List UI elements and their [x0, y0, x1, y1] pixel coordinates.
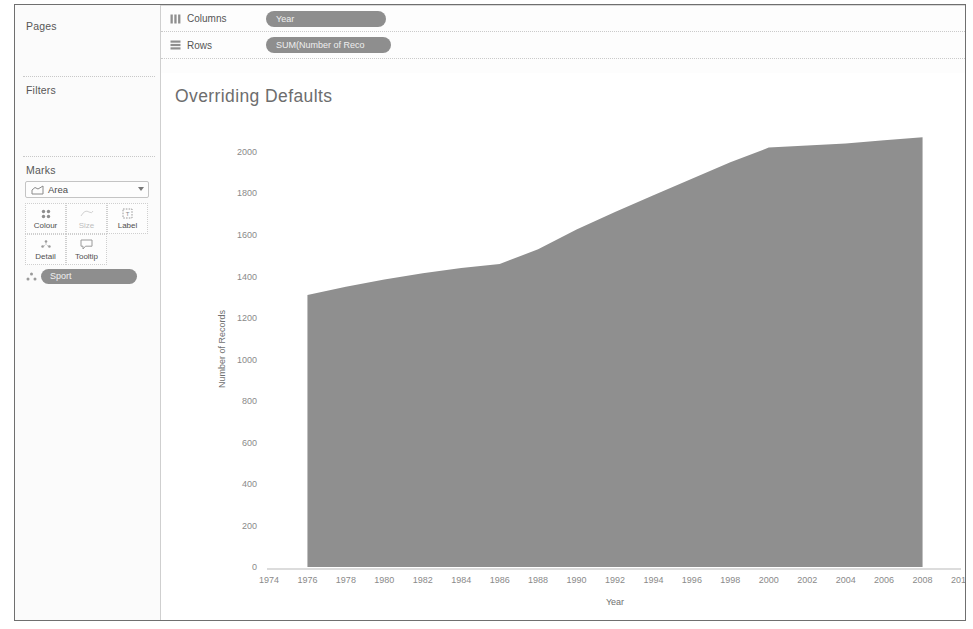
- x-tick-label: 1998: [720, 575, 740, 585]
- rows-shelf-label-group: Rows: [161, 40, 266, 51]
- x-tick-label: 2006: [874, 575, 894, 585]
- x-tick-label: 1974: [259, 575, 279, 585]
- x-tick-label: 1982: [413, 575, 433, 585]
- chart-container[interactable]: 0200400600800100012001400160018002000 19…: [161, 125, 957, 620]
- x-tick-label: 1984: [451, 575, 471, 585]
- area-series-number-of-records[interactable]: [307, 137, 922, 567]
- rows-pill-sum-number-of-records[interactable]: SUM(Number of Reco: [266, 37, 391, 53]
- pages-shelf[interactable]: Pages: [15, 13, 161, 77]
- y-tick-label: 1600: [237, 230, 257, 240]
- left-sidebar: Pages Filters Marks Area: [15, 5, 161, 620]
- x-tick-label: 2008: [913, 575, 933, 585]
- columns-icon: [170, 14, 181, 24]
- x-tick-label: 1978: [336, 575, 356, 585]
- marks-card: Marks Area: [15, 157, 161, 317]
- colour-icon: [40, 208, 52, 220]
- marks-card-encoding-row: Sport: [25, 269, 149, 284]
- mark-type-value: Area: [48, 184, 68, 195]
- y-tick-label: 1000: [237, 355, 257, 365]
- tooltip-icon: [80, 239, 93, 251]
- x-axis-ticks: 1974197619781980198219841986198819901992…: [259, 575, 966, 585]
- x-tick-label: 2010: [951, 575, 966, 585]
- marks-button-label: Detail: [35, 252, 55, 261]
- y-axis-title: Number of Records: [217, 309, 227, 388]
- y-axis-ticks: 0200400600800100012001400160018002000: [237, 147, 257, 572]
- x-axis-title: Year: [606, 597, 624, 607]
- marks-button-label: Size: [79, 221, 95, 230]
- filters-shelf-title: Filters: [15, 77, 161, 96]
- area-chart[interactable]: 0200400600800100012001400160018002000 19…: [161, 125, 966, 620]
- y-tick-label: 600: [242, 438, 257, 448]
- size-icon: [80, 208, 94, 220]
- viz-pane: Overriding Defaults 02004006008001000120…: [161, 73, 965, 620]
- shelf-area: Columns Year Rows SUM(Number of Reco: [161, 5, 965, 73]
- x-tick-label: 1986: [490, 575, 510, 585]
- x-tick-label: 1994: [643, 575, 663, 585]
- marks-button-label: Tooltip: [75, 252, 98, 261]
- marks-buttons: Colour Size: [25, 203, 149, 265]
- y-tick-label: 200: [242, 521, 257, 531]
- x-tick-label: 1976: [297, 575, 317, 585]
- columns-shelf[interactable]: Columns Year: [161, 5, 965, 32]
- rows-shelf-label: Rows: [187, 40, 212, 51]
- marks-card-title: Marks: [15, 157, 161, 176]
- tableau-window: Pages Filters Marks Area: [14, 4, 966, 621]
- x-tick-label: 2002: [797, 575, 817, 585]
- y-tick-label: 0: [252, 562, 257, 572]
- rows-icon: [170, 40, 181, 50]
- marks-button-label[interactable]: T Label: [107, 203, 148, 234]
- marks-button-detail[interactable]: Detail: [25, 234, 66, 265]
- y-tick-label: 400: [242, 479, 257, 489]
- mark-type-dropdown[interactable]: Area: [25, 181, 149, 198]
- marks-button-colour[interactable]: Colour: [25, 203, 66, 234]
- rows-shelf[interactable]: Rows SUM(Number of Reco: [161, 32, 965, 59]
- chevron-down-icon[interactable]: [138, 187, 144, 191]
- filters-shelf[interactable]: Filters: [15, 77, 161, 157]
- colour-icon: [25, 271, 38, 282]
- marks-button-label: Label: [118, 221, 138, 230]
- x-tick-label: 1988: [528, 575, 548, 585]
- viz-title: Overriding Defaults: [175, 86, 332, 107]
- y-tick-label: 1400: [237, 272, 257, 282]
- area-mark-icon: [31, 185, 44, 195]
- x-tick-label: 1990: [567, 575, 587, 585]
- marks-button-label: Colour: [34, 221, 58, 230]
- marks-button-tooltip[interactable]: Tooltip: [66, 234, 107, 265]
- marks-button-size[interactable]: Size: [66, 203, 107, 234]
- pages-shelf-title: Pages: [15, 13, 161, 32]
- x-tick-label: 1980: [374, 575, 394, 585]
- y-tick-label: 2000: [237, 147, 257, 157]
- x-tick-label: 2004: [836, 575, 856, 585]
- marks-button-spacer: [107, 234, 148, 265]
- columns-shelf-label: Columns: [187, 13, 226, 24]
- detail-icon: [40, 239, 52, 251]
- y-tick-label: 800: [242, 396, 257, 406]
- svg-text:T: T: [126, 211, 130, 217]
- x-tick-label: 1996: [682, 575, 702, 585]
- y-tick-label: 1200: [237, 313, 257, 323]
- x-tick-label: 1992: [605, 575, 625, 585]
- marks-card-pill-sport[interactable]: Sport: [41, 269, 137, 284]
- columns-shelf-label-group: Columns: [161, 13, 266, 24]
- columns-pill-year[interactable]: Year: [266, 11, 386, 27]
- y-tick-label: 1800: [237, 188, 257, 198]
- label-icon: T: [122, 208, 133, 220]
- x-tick-label: 2000: [759, 575, 779, 585]
